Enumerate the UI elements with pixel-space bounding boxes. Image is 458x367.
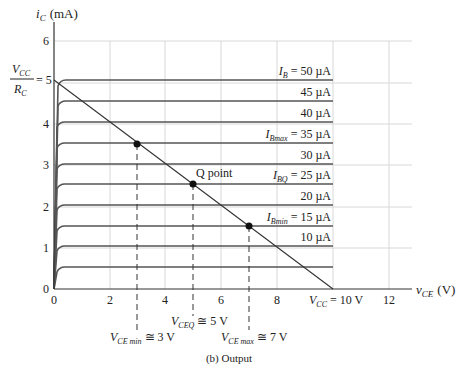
tick-x-4: 4 bbox=[162, 293, 168, 307]
svg-text:45 µA: 45 µA bbox=[300, 85, 331, 99]
q-point-label: Q point bbox=[196, 166, 233, 180]
figure-caption: (b) Output bbox=[206, 352, 252, 365]
y-axis-title: iC(mA) bbox=[36, 6, 78, 23]
svg-text:IBmin = 15 µA: IBmin = 15 µA bbox=[266, 210, 332, 226]
svg-text:VCC: VCC bbox=[12, 62, 31, 78]
vcc-over-rc-label: VCC RC = 5 bbox=[10, 62, 52, 98]
vce-max-label: VCE max ≅ 7 V bbox=[221, 330, 288, 346]
tick-x-6: 6 bbox=[218, 293, 224, 307]
svg-text:10 µA: 10 µA bbox=[300, 230, 331, 244]
vce-min-label: VCE min ≅ 3 V bbox=[110, 330, 175, 346]
point-vce-max bbox=[246, 223, 253, 230]
vcc-label: VCC = 10 V bbox=[309, 293, 364, 309]
axes bbox=[54, 22, 412, 289]
svg-text:= 5: = 5 bbox=[36, 73, 52, 87]
svg-text:IB = 50 µA: IB = 50 µA bbox=[278, 64, 332, 80]
svg-text:IBQ = 25 µA: IBQ = 25 µA bbox=[272, 168, 331, 184]
svg-text:30 µA: 30 µA bbox=[300, 148, 331, 162]
tick-x-0: 0 bbox=[51, 293, 57, 307]
x-axis-title: vCE(V) bbox=[416, 282, 455, 299]
svg-text:IBmax = 35 µA: IBmax = 35 µA bbox=[264, 127, 331, 143]
tick-x-12: 12 bbox=[383, 293, 395, 307]
tick-y-1: 1 bbox=[43, 241, 49, 255]
svg-text:20 µA: 20 µA bbox=[300, 189, 331, 203]
tick-x-8: 8 bbox=[274, 293, 280, 307]
svg-text:RC: RC bbox=[13, 82, 27, 98]
tick-y-0: 0 bbox=[43, 282, 49, 296]
point-q bbox=[190, 181, 197, 188]
tick-y-3: 3 bbox=[43, 158, 49, 172]
svg-text:40 µA: 40 µA bbox=[300, 106, 331, 120]
vceq-label: VCEQ ≅ 5 V bbox=[171, 314, 228, 330]
ib-labels: IB = 50 µA 45 µA 40 µA IBmax = 35 µA 30 … bbox=[264, 64, 331, 244]
tick-y-4: 4 bbox=[43, 117, 49, 131]
tick-y-2: 2 bbox=[43, 200, 49, 214]
tick-y-6: 6 bbox=[43, 34, 49, 48]
point-vce-min bbox=[134, 141, 141, 148]
grid bbox=[54, 41, 412, 289]
tick-x-2: 2 bbox=[107, 293, 113, 307]
transistor-output-characteristics-chart: 0 1 2 3 4 6 0 2 4 6 8 12 iC(mA) vCE(V) V… bbox=[0, 0, 458, 367]
